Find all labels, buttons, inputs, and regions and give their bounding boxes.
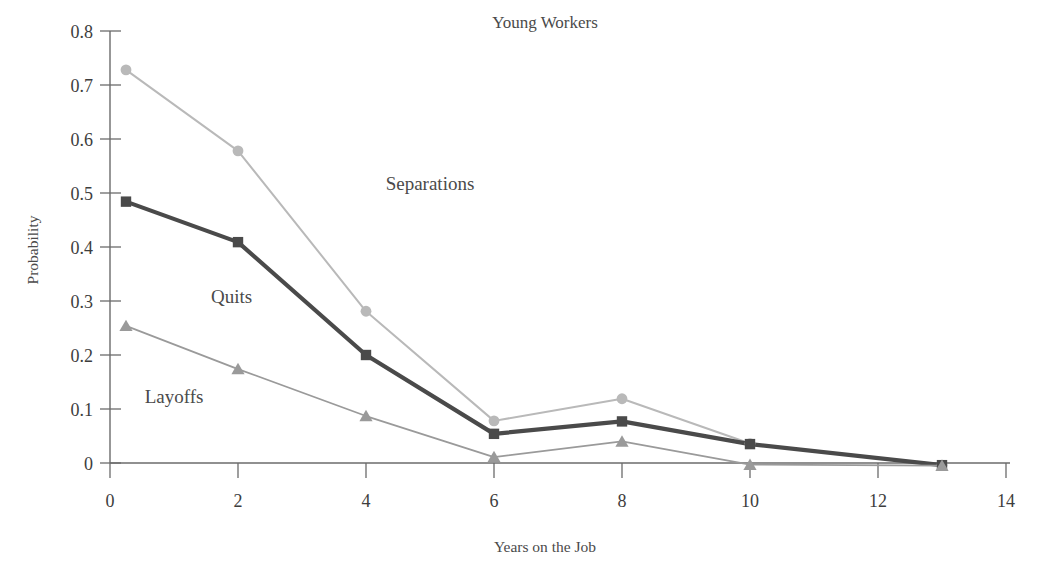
x-axis-label: Years on the Job bbox=[494, 538, 596, 555]
data-point-separations bbox=[121, 64, 132, 75]
data-point-quits bbox=[745, 439, 755, 449]
data-point-quits bbox=[361, 350, 371, 360]
data-point-separations bbox=[233, 145, 244, 156]
y-tick-label: 0.6 bbox=[71, 130, 94, 150]
y-tick-label: 0.2 bbox=[71, 346, 94, 366]
data-point-quits bbox=[617, 416, 627, 426]
x-tick-label: 6 bbox=[490, 491, 499, 511]
x-tick-label: 14 bbox=[997, 491, 1015, 511]
x-tick-label: 10 bbox=[741, 491, 759, 511]
data-point-separations bbox=[617, 393, 628, 404]
series-line-separations bbox=[126, 70, 942, 465]
data-point-separations bbox=[489, 415, 500, 426]
series-line-layoffs bbox=[126, 326, 942, 466]
y-axis: 00.10.20.30.40.50.60.70.8 Probability bbox=[24, 22, 121, 474]
series-lines-group bbox=[126, 70, 942, 466]
y-tick-label: 0.7 bbox=[71, 76, 94, 96]
data-point-quits bbox=[233, 237, 243, 247]
series-annotation-group: SeparationsQuitsLayoffs bbox=[145, 173, 475, 406]
y-tick-group: 00.10.20.30.40.50.60.70.8 bbox=[71, 22, 122, 474]
x-tick-group: 02468101214 bbox=[106, 463, 1016, 511]
data-point-quits bbox=[121, 196, 131, 206]
x-tick-label: 4 bbox=[362, 491, 371, 511]
data-point-layoffs bbox=[615, 435, 628, 446]
chart-container: Young Workers 00.10.20.30.40.50.60.70.8 … bbox=[0, 0, 1043, 571]
series-label-quits: Quits bbox=[211, 286, 252, 307]
x-axis: 02468101214 Years on the Job bbox=[106, 463, 1016, 555]
series-line-quits bbox=[126, 202, 942, 466]
series-markers-group bbox=[119, 64, 948, 470]
series-label-separations: Separations bbox=[386, 173, 475, 194]
y-tick-label: 0.8 bbox=[71, 22, 94, 42]
y-tick-label: 0.4 bbox=[71, 238, 94, 258]
y-tick-label: 0.3 bbox=[71, 292, 94, 312]
x-tick-label: 2 bbox=[234, 491, 243, 511]
series-label-layoffs: Layoffs bbox=[145, 386, 204, 407]
data-point-layoffs bbox=[231, 363, 244, 374]
data-point-quits bbox=[489, 429, 499, 439]
chart-title: Young Workers bbox=[492, 13, 598, 32]
data-point-separations bbox=[361, 306, 372, 317]
data-point-layoffs bbox=[359, 410, 372, 421]
y-tick-label: 0 bbox=[84, 454, 93, 474]
y-tick-label: 0.5 bbox=[71, 184, 94, 204]
y-tick-label: 0.1 bbox=[71, 400, 94, 420]
y-axis-label: Probability bbox=[24, 215, 41, 284]
x-tick-label: 12 bbox=[869, 491, 887, 511]
line-chart: Young Workers 00.10.20.30.40.50.60.70.8 … bbox=[0, 0, 1043, 571]
data-point-layoffs bbox=[119, 320, 132, 331]
x-tick-label: 8 bbox=[618, 491, 627, 511]
x-tick-label: 0 bbox=[106, 491, 115, 511]
